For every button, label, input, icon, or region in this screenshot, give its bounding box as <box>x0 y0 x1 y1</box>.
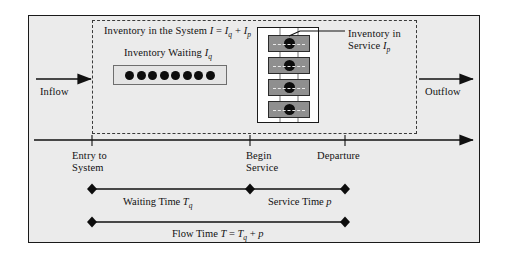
flow-time-equals: = <box>226 228 237 239</box>
milestone-entry-line2: System <box>72 162 107 174</box>
service-time-text: Service Time <box>268 196 326 207</box>
flow-time-term1-sub: q <box>243 233 247 242</box>
flow-time-label: Flow Time T = Tq + p <box>172 228 263 239</box>
queue-unit <box>137 71 146 80</box>
queue-title: Inventory Waiting Iq <box>124 47 212 60</box>
system-title-term2-sub: p <box>247 30 251 39</box>
service-callout-sub: p <box>387 45 391 54</box>
service-callout-line2-text: Service <box>348 40 383 51</box>
waiting-time-label: Waiting Time Tq <box>123 196 192 207</box>
milestone-begin-line2: Service <box>246 162 278 174</box>
flow-time-plus: + <box>247 228 258 239</box>
server-unit <box>268 101 310 118</box>
waiting-time-symbol: T <box>183 196 189 207</box>
queue-unit <box>171 71 180 80</box>
server-dash <box>273 88 305 89</box>
milestone-label-begin-service: Begin Service <box>246 150 278 174</box>
queue-unit <box>206 71 215 80</box>
server-dash <box>273 110 305 111</box>
service-callout-symbol: I <box>383 40 387 51</box>
system-title: Inventory in the System I = Iq + Ip <box>104 25 251 38</box>
server-dash <box>273 44 305 45</box>
flow-time-term2: p <box>258 228 263 239</box>
service-station-block <box>257 27 319 123</box>
waiting-time-sub: q <box>189 201 193 210</box>
system-title-term1-sub: q <box>228 30 232 39</box>
inflow-label: Inflow <box>40 86 69 98</box>
service-time-symbol: p <box>326 196 331 207</box>
queue-unit <box>148 71 157 80</box>
milestone-begin-line1: Begin <box>246 150 278 162</box>
server-unit <box>268 35 310 52</box>
system-title-plus: + <box>232 25 243 36</box>
system-title-equals: = <box>213 25 224 36</box>
milestone-label-entry: Entry to System <box>72 150 107 174</box>
flow-time-text: Flow Time <box>172 228 220 239</box>
outflow-label: Outflow <box>425 86 461 98</box>
milestone-entry-line1: Entry to <box>72 150 107 162</box>
milestone-label-departure: Departure <box>317 150 360 162</box>
server-unit <box>268 79 310 96</box>
server-dash <box>273 66 305 67</box>
service-callout-label: Inventory in Service Ip <box>348 28 401 53</box>
queue-title-text: Inventory Waiting <box>124 47 205 58</box>
server-unit <box>268 57 310 74</box>
queue-unit <box>125 71 134 80</box>
system-title-prefix: Inventory in the System <box>104 25 210 36</box>
service-time-label: Service Time p <box>268 196 332 207</box>
queue-unit <box>183 71 192 80</box>
waiting-time-text: Waiting Time <box>123 196 183 207</box>
queueing-flow-time-diagram: Inventory in the System I = Iq + Ip Inve… <box>0 0 510 263</box>
queue-box <box>113 65 227 85</box>
service-callout-line1: Inventory in <box>348 28 401 39</box>
milestone-departure-line1: Departure <box>317 150 360 162</box>
queue-title-sub: q <box>208 52 212 61</box>
queue-unit <box>194 71 203 80</box>
queue-unit <box>160 71 169 80</box>
